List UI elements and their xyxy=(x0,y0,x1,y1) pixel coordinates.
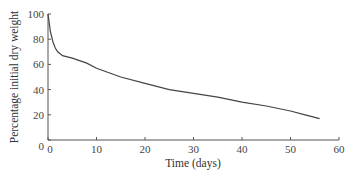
y-tick-label: 40 xyxy=(33,84,45,96)
x-tick-label: 30 xyxy=(188,143,200,155)
x-tick-label: 20 xyxy=(140,143,152,155)
y-tick-label: 0 xyxy=(39,140,45,152)
x-tick-label: 10 xyxy=(91,143,103,155)
x-tick-label: 40 xyxy=(237,143,249,155)
x-axis-label: Time (days) xyxy=(165,157,221,170)
line-chart: 0102030405060020406080100 Time (days) Pe… xyxy=(0,0,360,179)
y-axis-label: Percentage initial dry weight xyxy=(8,10,21,143)
x-tick-label: 50 xyxy=(285,143,297,155)
y-tick-label: 20 xyxy=(33,109,45,121)
data-line xyxy=(48,14,320,119)
y-tick-label: 100 xyxy=(28,8,45,20)
axes: 0102030405060020406080100 xyxy=(28,8,346,155)
x-tick-label: 60 xyxy=(334,143,346,155)
x-tick-label: 0 xyxy=(47,143,53,155)
y-tick-label: 60 xyxy=(33,58,45,70)
y-tick-label: 80 xyxy=(33,33,45,45)
